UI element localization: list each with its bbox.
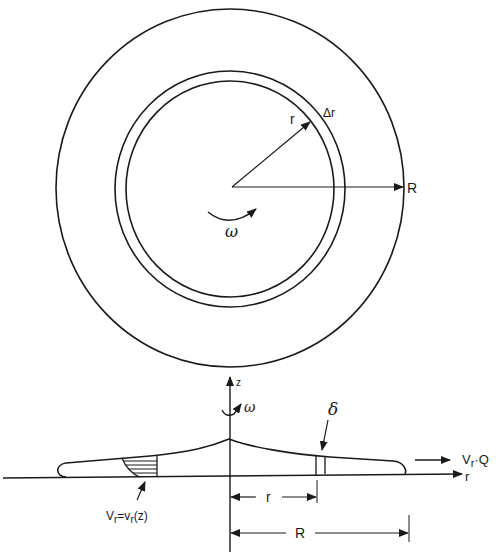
outflow-label: Vr·Q — [462, 452, 489, 469]
annulus-outer-circle — [115, 71, 345, 307]
delta-r-label: Δr — [323, 106, 335, 120]
outer-disk-circle — [56, 9, 404, 367]
top-view: r Δr R ω — [56, 9, 417, 367]
dim-r-label: r — [266, 489, 271, 505]
delta-pointer — [322, 420, 328, 450]
side-view: z ω r Vr=vr(z) δ Vr·Q — [3, 377, 489, 552]
omega-label-top: ω — [225, 222, 238, 241]
omega-label-side: ω — [244, 399, 256, 415]
axis-rotation-icon — [222, 404, 241, 415]
velocity-profile-label: Vr=vr(z) — [106, 509, 148, 525]
radius-r-label: r — [290, 111, 295, 127]
velocity-profile-pointer — [137, 482, 145, 500]
z-axis-label: z — [236, 377, 241, 388]
diagram-canvas: r Δr R ω z ω r Vr=vr(z) — [0, 0, 496, 553]
delta-label: δ — [328, 399, 338, 419]
radius-r-arrow — [232, 122, 310, 187]
r-axis — [3, 474, 462, 478]
annulus-inner-circle — [126, 81, 334, 297]
r-axis-label: r — [465, 469, 470, 484]
spinning-disk-diagram: r Δr R ω z ω r Vr=vr(z) — [0, 0, 496, 553]
dim-R-label: R — [295, 525, 305, 541]
rotation-arrow-icon — [208, 209, 256, 220]
radius-R-label: R — [407, 180, 417, 196]
fluid-film-profile — [58, 439, 406, 477]
